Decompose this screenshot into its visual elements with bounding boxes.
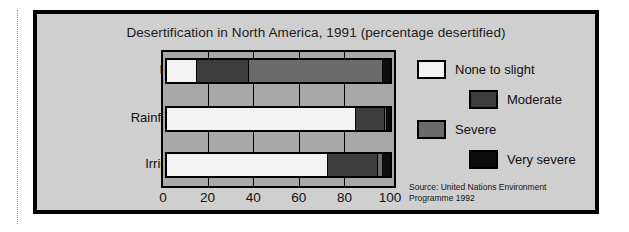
legend-item-severe: Severe	[417, 120, 496, 139]
bar-segment-none-to-slight	[165, 152, 328, 178]
source-note-line-1: Source: United Nations Environment	[409, 182, 599, 193]
legend-swatch-moderate	[469, 90, 498, 109]
bar-segment-very-severe	[383, 58, 392, 84]
page-margin-rule	[17, 10, 18, 224]
bar-segment-none-to-slight	[165, 106, 356, 132]
x-tick-40: 40	[246, 190, 261, 205]
legend-label-moderate: Moderate	[507, 92, 562, 107]
bar-segment-moderate	[328, 152, 378, 178]
legend-swatch-none-to-slight	[417, 60, 446, 79]
x-tick-80: 80	[337, 190, 352, 205]
plot-area	[161, 50, 396, 188]
legend-swatch-severe	[417, 120, 446, 139]
bar-segment-none-to-slight	[165, 58, 197, 84]
legend-item-moderate: Moderate	[469, 90, 562, 109]
bar-segment-very-severe	[383, 152, 392, 178]
bar-segment-moderate	[197, 58, 249, 84]
x-tick-20: 20	[200, 190, 215, 205]
bar-row	[165, 152, 392, 178]
chart-figure: Desertification in North America, 1991 (…	[33, 10, 599, 214]
legend-swatch-very-severe	[469, 150, 498, 169]
legend-item-very-severe: Very severe	[469, 150, 576, 169]
x-tick-0: 0	[159, 190, 167, 205]
bar-row	[165, 58, 392, 84]
legend-item-none-to-slight: None to slight	[417, 60, 535, 79]
plot-wrapper	[161, 50, 396, 188]
legend-label-none-to-slight: None to slight	[455, 62, 535, 77]
x-tick-100: 100	[379, 190, 402, 205]
x-axis-tick-labels: 0 20 40 60 80 100	[161, 190, 396, 208]
legend-label-very-severe: Very severe	[507, 152, 576, 167]
legend-label-severe: Severe	[455, 122, 496, 137]
chart-title: Desertification in North America, 1991 (…	[37, 25, 595, 40]
bar-segment-severe	[249, 58, 383, 84]
bar-segment-moderate	[356, 106, 386, 132]
x-tick-60: 60	[291, 190, 306, 205]
bar-row	[165, 106, 392, 132]
chart-legend: None to slight Moderate Severe Very seve…	[417, 58, 597, 176]
source-note-line-2: Programme 1992	[409, 193, 599, 204]
source-note: Source: United Nations Environment Progr…	[409, 182, 599, 204]
bar-segment-very-severe	[387, 106, 392, 132]
